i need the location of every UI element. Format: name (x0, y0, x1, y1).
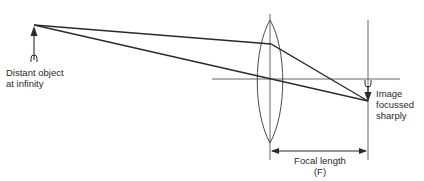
ray-central (34, 25, 368, 101)
focal-length-dimension-icon (271, 148, 367, 154)
object-label-line1: Distant object (6, 67, 64, 78)
ray-diagram (0, 0, 424, 181)
object-label-line2: at infinity (6, 78, 64, 89)
focal-length-label-line2: (F) (290, 166, 350, 177)
focal-length-label: Focal length (F) (290, 155, 350, 177)
image-label-line1: Image (376, 88, 414, 99)
image-label-line3: sharply (376, 110, 414, 121)
image-label: Image focussed sharply (376, 88, 414, 121)
focal-length-label-line1: Focal length (290, 155, 350, 166)
object-label: Distant object at infinity (6, 67, 64, 89)
object-arrow-icon (31, 26, 38, 62)
image-label-line2: focussed (376, 99, 414, 110)
